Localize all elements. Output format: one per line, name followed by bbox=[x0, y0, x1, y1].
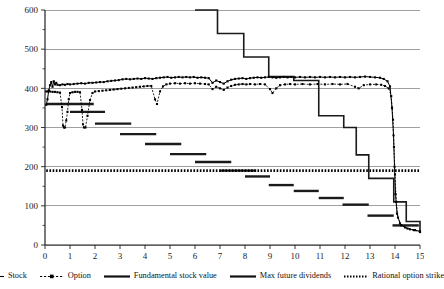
chart-canvas: 0100200300400500600 01234567891011121314… bbox=[0, 0, 424, 262]
x-axis-tick-labels: 0123456789101112131415 bbox=[43, 251, 424, 261]
y-axis-tick-labels: 0100200300400500600 bbox=[25, 5, 39, 250]
svg-text:400: 400 bbox=[25, 84, 39, 94]
legend-item-max-future-dividends: Max future dividends bbox=[230, 267, 331, 285]
legend-label-option: Option bbox=[68, 271, 91, 280]
legend-label-max-future-dividends: Max future dividends bbox=[260, 271, 331, 280]
svg-text:12: 12 bbox=[341, 251, 350, 261]
svg-text:10: 10 bbox=[291, 251, 301, 261]
svg-text:14: 14 bbox=[391, 251, 401, 261]
max-dividends-line-swatch-icon bbox=[230, 267, 256, 285]
svg-text:11: 11 bbox=[316, 251, 325, 261]
svg-text:2: 2 bbox=[93, 251, 98, 261]
fundamental-stock-value-series bbox=[195, 10, 420, 231]
x-axis-ticks bbox=[45, 245, 420, 249]
svg-text:1: 1 bbox=[68, 251, 73, 261]
svg-text:6: 6 bbox=[193, 251, 198, 261]
option-series bbox=[45, 82, 421, 233]
svg-text:5: 5 bbox=[168, 251, 173, 261]
legend-label-fundamental-stock-value: Fundamental stock value bbox=[134, 271, 217, 280]
legend-item-fundamental-stock-value: Fundamental stock value bbox=[104, 267, 217, 285]
svg-text:13: 13 bbox=[366, 251, 376, 261]
svg-text:0: 0 bbox=[43, 251, 48, 261]
legend-item-option: Option bbox=[40, 267, 91, 285]
option-line-swatch-icon bbox=[40, 267, 64, 285]
svg-text:300: 300 bbox=[25, 123, 39, 133]
stock-line-swatch-icon bbox=[0, 267, 4, 285]
svg-text:0: 0 bbox=[34, 240, 39, 250]
stock-series bbox=[45, 76, 421, 233]
svg-text:200: 200 bbox=[25, 162, 39, 172]
svg-text:15: 15 bbox=[416, 251, 425, 261]
gridlines bbox=[45, 10, 420, 245]
max-future-dividends-series bbox=[46, 104, 419, 225]
legend-item-rational-option-strike: Rational option strike bbox=[344, 267, 444, 285]
fundamental-value-line-swatch-icon bbox=[104, 267, 130, 285]
svg-text:8: 8 bbox=[243, 251, 248, 261]
plot-area: 0100200300400500600 01234567891011121314… bbox=[0, 0, 424, 262]
legend-item-stock: Stock bbox=[0, 267, 27, 285]
svg-text:9: 9 bbox=[268, 251, 273, 261]
svg-text:7: 7 bbox=[218, 251, 223, 261]
svg-text:500: 500 bbox=[25, 44, 39, 54]
svg-text:3: 3 bbox=[118, 251, 123, 261]
rational-strike-line-swatch-icon bbox=[344, 267, 368, 285]
chart-legend: Stock Option Fundamental stock value bbox=[0, 262, 424, 289]
svg-text:4: 4 bbox=[143, 251, 148, 261]
legend-label-stock: Stock bbox=[8, 271, 27, 280]
legend-label-rational-option-strike: Rational option strike bbox=[372, 271, 444, 280]
svg-text:100: 100 bbox=[25, 201, 39, 211]
svg-text:600: 600 bbox=[25, 5, 39, 15]
